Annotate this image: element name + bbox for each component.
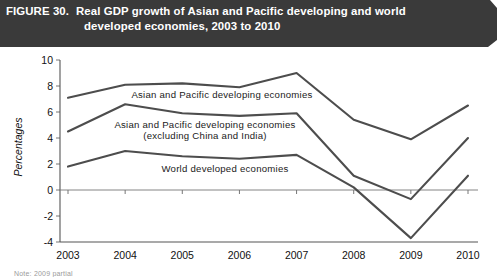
y-tick-label: 8	[47, 80, 53, 92]
x-tick-label: 2010	[456, 249, 480, 261]
y-tick-label: 10	[41, 54, 53, 66]
x-tick-label: 2009	[399, 249, 423, 261]
series-label-line-1: Asian and Pacific developing economies	[131, 89, 312, 100]
line-chart: Percentages 1086420-2-4 2003200420052006…	[0, 47, 497, 277]
y-axis-title: Percentages	[12, 117, 24, 177]
chart-area: Percentages 1086420-2-4 2003200420052006…	[0, 47, 497, 277]
x-tick-label: 2006	[228, 249, 252, 261]
figure-title-line-2: developed economies, 2003 to 2010	[84, 20, 280, 32]
y-tick-label: -2	[44, 210, 53, 222]
figure-banner-text: FIGURE 30.Real GDP growth of Asian and P…	[0, 0, 497, 34]
figure-banner: FIGURE 30.Real GDP growth of Asian and P…	[0, 0, 497, 47]
series-label-line-2: (excluding China and India)	[143, 130, 267, 141]
figure-caption-line-2: developed economies, 2003 to 2010	[6, 19, 487, 34]
y-tick-label: 6	[47, 106, 53, 118]
figure-number-label: FIGURE 30.	[6, 5, 69, 17]
series-labels: Asian and Pacific developing economiesAs…	[114, 89, 312, 174]
figure-caption-line-1: FIGURE 30.Real GDP growth of Asian and P…	[6, 4, 487, 19]
x-tick-label: 2005	[171, 249, 195, 261]
x-axis-ticks: 20032004200520062007200820092010	[56, 190, 480, 261]
y-tick-label: -4	[44, 236, 53, 248]
y-tick-label: 0	[47, 184, 53, 196]
y-axis-ticks: 1086420-2-4	[41, 54, 60, 248]
x-tick-label: 2004	[113, 249, 137, 261]
y-tick-label: 4	[47, 132, 53, 144]
series-label-line-1: Asian and Pacific developing economies	[114, 119, 295, 130]
series-label-line-1: World developed economies	[161, 163, 288, 174]
figure-footnote: Note: 2009 partial	[14, 270, 73, 277]
y-tick-label: 2	[47, 158, 53, 170]
x-tick-label: 2003	[56, 249, 80, 261]
x-tick-label: 2008	[342, 249, 366, 261]
x-tick-label: 2007	[285, 249, 309, 261]
figure-title-line-1: Real GDP growth of Asian and Pacific dev…	[76, 5, 406, 17]
